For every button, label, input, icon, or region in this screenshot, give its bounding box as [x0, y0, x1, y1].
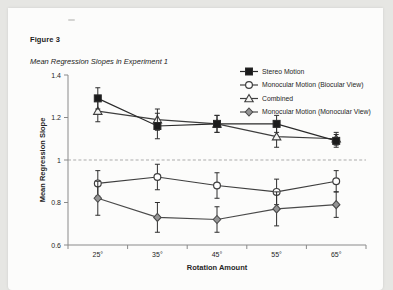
legend-open-circle-icon [246, 82, 253, 89]
filled-square-marker [94, 95, 101, 102]
y-tick-label: 1.4 [51, 72, 61, 79]
filled-diamond-marker [333, 201, 340, 209]
open-circle-marker [214, 182, 221, 189]
open-circle-marker [333, 178, 340, 185]
legend-item-label: Monocular Motion (Monocular View) [262, 108, 371, 116]
legend-item-label: Stereo Motion [262, 68, 305, 75]
y-tick-label: 1 [57, 157, 61, 164]
filled-square-marker [154, 123, 161, 130]
legend-item-label: Monocular Motion (Biocular View) [262, 81, 364, 89]
x-tick-label: 35° [152, 251, 163, 258]
legend-filled-diamond-icon [245, 108, 252, 116]
y-tick-label: 0.8 [51, 199, 61, 206]
x-tick-label: 25° [93, 251, 104, 258]
y-tick-label: 0.6 [51, 242, 61, 249]
filled-diamond-marker [213, 216, 220, 224]
x-tick-label: 45° [212, 251, 223, 258]
x-axis-title: Rotation Amount [187, 263, 248, 272]
legend-filled-square-icon [246, 68, 253, 75]
filled-square-marker [333, 137, 340, 144]
chart-generated-content: 1.41.210.80.625°35°45°55°65°Stereo Motio… [51, 68, 370, 258]
filled-square-marker [273, 120, 280, 127]
y-axis-title: Mean Regression Slope [38, 118, 47, 203]
x-tick-label: 55° [271, 251, 282, 258]
filled-diamond-marker [273, 205, 280, 213]
open-circle-marker [154, 174, 161, 181]
legend-item-label: Combined [262, 95, 293, 102]
filled-square-marker [214, 120, 221, 127]
screenshot-canvas: { "page": { "figure_label": "Figure 3", … [0, 0, 393, 290]
document-page: Figure 3 Mean Regression Slopes in Exper… [8, 8, 383, 290]
filled-diamond-marker [94, 194, 101, 202]
regression-slope-chart: 1.41.210.80.625°35°45°55°65°Stereo Motio… [8, 8, 383, 290]
filled-diamond-marker [154, 213, 161, 221]
y-tick-label: 1.2 [51, 114, 61, 121]
x-tick-label: 65° [331, 251, 342, 258]
